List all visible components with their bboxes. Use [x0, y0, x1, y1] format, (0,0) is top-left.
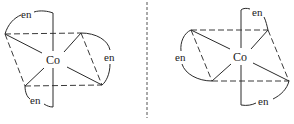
right-en-top-arc	[264, 17, 268, 30]
right-en-left-label: en	[175, 51, 186, 63]
enantiomer-diagram: Co en en en	[0, 0, 294, 124]
left-en-top-label: en	[21, 8, 32, 20]
left-bond-bl	[25, 68, 44, 86]
left-en-right-label: en	[104, 51, 115, 63]
right-en-left-arc2	[182, 64, 212, 81]
left-bond-tr	[64, 33, 81, 52]
right-bond-bl	[212, 64, 231, 81]
right-bond-tl	[191, 30, 230, 49]
right-en-left-arc	[181, 30, 191, 51]
right-en-bottom-link	[241, 103, 256, 105]
right-en-top-link	[241, 8, 250, 10]
right-bond-br	[253, 63, 289, 81]
left-en-bottom-label: en	[30, 94, 41, 106]
left-en-bottom-link	[44, 104, 53, 107]
right-en-bottom-label: en	[258, 95, 269, 107]
right-en-top-label: en	[252, 6, 263, 18]
left-en-top-arc	[5, 15, 21, 34]
left-bond-tl	[5, 34, 42, 53]
left-bond-br	[67, 67, 102, 85]
left-co-label: Co	[46, 53, 60, 67]
right-isomer: Co en en en	[175, 6, 289, 107]
diagram-canvas: Co en en en	[0, 0, 294, 124]
left-en-right-arc2	[102, 64, 110, 85]
left-isomer: Co en en en	[5, 8, 115, 107]
right-bond-tr	[251, 30, 268, 49]
left-en-right-arc	[81, 33, 110, 50]
right-en-bottom-arc	[273, 81, 289, 99]
left-en-top-link	[34, 11, 53, 13]
right-co-label: Co	[233, 50, 247, 64]
